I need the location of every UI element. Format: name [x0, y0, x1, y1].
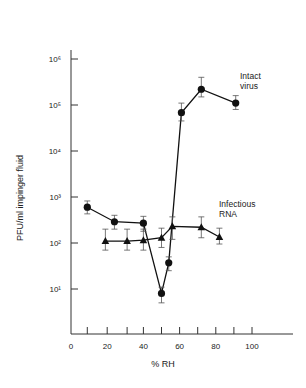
annotation-infectious-rna: Infectious RNA: [219, 199, 255, 219]
data-point-circle: [178, 109, 185, 116]
data-point-circle: [232, 99, 239, 106]
series-layer: [84, 77, 240, 303]
series-intact-virus: [84, 77, 240, 303]
svg-text:Infectious: Infectious: [219, 199, 255, 209]
x-tick-label: 100: [245, 342, 259, 351]
svg-text:virus: virus: [240, 81, 258, 91]
data-point-circle: [84, 204, 91, 211]
data-point-circle: [198, 86, 205, 93]
x-tick-label: 20: [103, 342, 112, 351]
data-point-circle: [158, 290, 165, 297]
y-tick-label: 10²: [49, 239, 61, 248]
svg-text:RNA: RNA: [219, 209, 237, 219]
chart: 10¹10²10³10⁴10⁵10⁶020406080100 % RH PFU/…: [0, 0, 306, 388]
axes: 10¹10²10³10⁴10⁵10⁶020406080100: [49, 50, 293, 351]
x-tick-label: 0: [69, 342, 74, 351]
svg-text:Intact: Intact: [240, 71, 261, 81]
y-tick-label: 10³: [49, 193, 61, 202]
data-point-circle: [140, 220, 147, 227]
data-point-circle: [165, 259, 172, 266]
x-tick-label: 60: [175, 342, 184, 351]
y-tick-label: 10⁵: [49, 101, 61, 110]
y-axis-label: PFU/ml impinger fluid: [15, 155, 25, 241]
y-tick-label: 10⁴: [49, 147, 62, 156]
y-tick-label: 10⁶: [49, 55, 61, 64]
data-point-triangle: [216, 233, 224, 240]
x-tick-label: 40: [139, 342, 148, 351]
y-tick-label: 10¹: [49, 285, 61, 294]
annotation-intact-virus: Intact virus: [240, 71, 261, 91]
x-tick-label: 80: [211, 342, 220, 351]
x-axis-label: % RH: [151, 359, 175, 369]
data-point-circle: [111, 218, 118, 225]
